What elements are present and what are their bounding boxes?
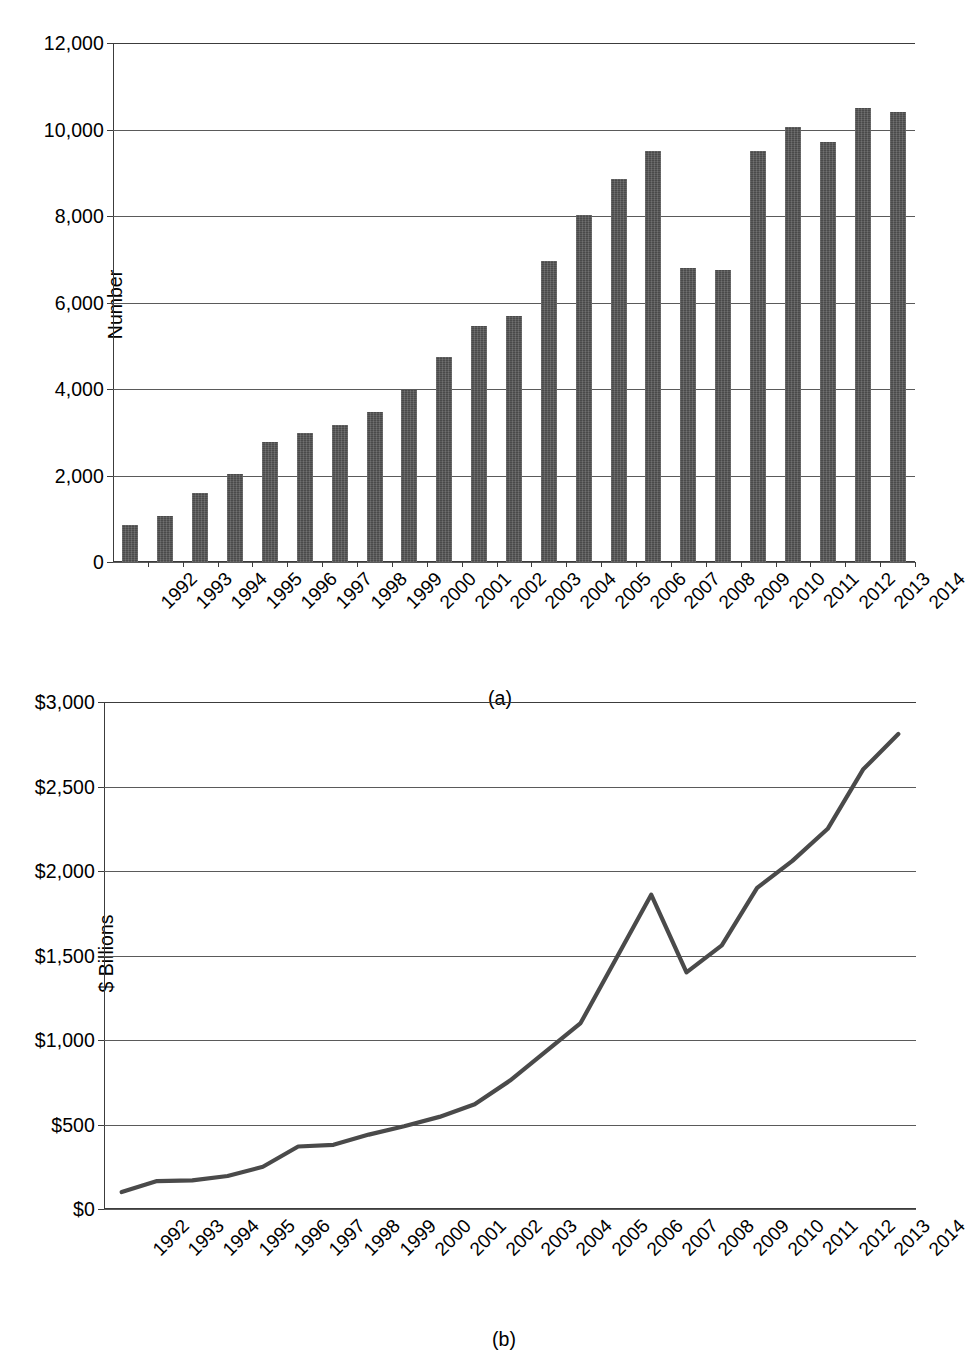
bar-2001: [436, 357, 452, 562]
panel-b-caption: (b): [98, 1328, 910, 1351]
x-axis-label-2010: 2010: [784, 1215, 829, 1260]
bar-2000: [401, 390, 417, 562]
line-series-path: [104, 702, 916, 1209]
y-axis-tick-label: $0: [73, 1198, 95, 1221]
bar-2004: [541, 261, 557, 562]
bar-2012: [820, 142, 836, 562]
x-axis-label-2005: 2005: [610, 568, 655, 613]
bar-chart-plot-area: Number 02,0004,0006,0008,00010,00012,000…: [113, 43, 915, 562]
x-axis-label-1996: 1996: [289, 1215, 334, 1260]
x-axis-label-1992: 1992: [148, 1215, 193, 1260]
x-axis-label-2004: 2004: [572, 1215, 617, 1260]
x-axis-label-2003: 2003: [540, 568, 585, 613]
gridline: [113, 43, 915, 44]
x-axis-label-1995: 1995: [254, 1215, 299, 1260]
y-axis-tick-label: $1,000: [35, 1029, 95, 1052]
bar-2013: [855, 108, 871, 562]
y-axis-tick-label: 10,000: [44, 118, 104, 141]
bar-2006: [611, 179, 627, 562]
bar-2005: [576, 215, 592, 562]
bar-1999: [367, 412, 383, 563]
x-axis-labels-b: 1992199319941995199619971998199920002001…: [104, 1209, 916, 1299]
y-axis-tick-label: $1,500: [35, 944, 95, 967]
y-axis-tick: [107, 216, 113, 217]
y-axis-tick: [107, 476, 113, 477]
x-axis-label-1994: 1994: [227, 568, 272, 613]
bar-2014: [890, 112, 906, 562]
bar-2003: [506, 316, 522, 562]
x-axis-label-2009: 2009: [750, 568, 795, 613]
x-axis-label-1999: 1999: [401, 568, 446, 613]
y-axis-tick: [107, 130, 113, 131]
x-axis-label-2007: 2007: [680, 568, 725, 613]
y-axis-tick-label: 6,000: [55, 291, 104, 314]
x-axis-label-1992: 1992: [157, 568, 202, 613]
bar-2010: [750, 151, 766, 562]
y-axis-tick-label: 0: [93, 551, 104, 574]
x-axis-label-2000: 2000: [430, 1215, 475, 1260]
x-axis-label-2002: 2002: [506, 568, 551, 613]
x-axis-label-1999: 1999: [395, 1215, 440, 1260]
line-chart-plot-area: $ Billions $0$500$1,000$1,500$2,000$2,50…: [104, 702, 916, 1209]
x-axis-tick: [915, 562, 916, 567]
x-axis-label-2004: 2004: [575, 568, 620, 613]
x-axis-label-1996: 1996: [296, 568, 341, 613]
y-axis-tick: [107, 43, 113, 44]
y-axis-tick-label: 2,000: [55, 464, 104, 487]
bar-1997: [297, 433, 313, 562]
x-axis-label-2012: 2012: [854, 568, 899, 613]
x-axis-label-2008: 2008: [713, 1215, 758, 1260]
y-axis-tick-label: $3,000: [35, 691, 95, 714]
y-axis-tick-label: $500: [51, 1113, 95, 1136]
x-axis-label-2008: 2008: [715, 568, 760, 613]
bar-1994: [192, 493, 208, 562]
bar-2011: [785, 127, 801, 562]
y-axis-tick-label: 4,000: [55, 378, 104, 401]
x-axis-label-2012: 2012: [854, 1215, 899, 1260]
x-axis-label-2011: 2011: [819, 568, 863, 612]
x-axis-label-2013: 2013: [889, 1215, 934, 1260]
x-axis-label-2009: 2009: [748, 1215, 793, 1260]
x-axis-label-2006: 2006: [642, 1215, 687, 1260]
x-axis-labels-a: 1992199319941995199619971998199920002001…: [113, 562, 915, 652]
y-axis-tick-label: $2,500: [35, 775, 95, 798]
x-axis-label-1994: 1994: [219, 1215, 264, 1260]
x-axis-label-2006: 2006: [645, 568, 690, 613]
bar-1996: [262, 442, 278, 562]
y-axis-tick-label: 8,000: [55, 205, 104, 228]
x-axis-label-2011: 2011: [818, 1215, 862, 1259]
figure-panel-b: $ Billions $0$500$1,000$1,500$2,000$2,50…: [0, 672, 932, 1332]
x-axis-label-2013: 2013: [889, 568, 934, 613]
y-axis-tick-label: 12,000: [44, 32, 104, 55]
x-axis-label-1993: 1993: [192, 568, 237, 613]
bar-2009: [715, 270, 731, 562]
x-axis-label-2002: 2002: [501, 1215, 546, 1260]
x-axis-label-2007: 2007: [678, 1215, 723, 1260]
bar-2002: [471, 326, 487, 562]
bar-1993: [157, 516, 173, 562]
figure-panel-a: Number 02,0004,0006,0008,00010,00012,000…: [0, 0, 932, 672]
bar-2007: [645, 151, 661, 562]
line-chart-canvas: $0$500$1,000$1,500$2,000$2,500$3,000: [104, 702, 916, 1209]
bar-1998: [332, 425, 348, 562]
y-axis-tick: [107, 389, 113, 390]
x-axis-label-2003: 2003: [536, 1215, 581, 1260]
bar-1992: [122, 525, 138, 562]
x-axis-label-2001: 2001: [466, 1215, 511, 1260]
x-axis-label-1998: 1998: [360, 1215, 405, 1260]
bar-2008: [680, 268, 696, 562]
x-axis-label-2010: 2010: [784, 568, 829, 613]
x-axis-label-1997: 1997: [325, 1215, 370, 1260]
x-axis-label-1997: 1997: [331, 568, 376, 613]
x-axis-label-2014: 2014: [924, 568, 969, 613]
bar-1995: [227, 474, 243, 562]
x-axis-label-1993: 1993: [183, 1215, 228, 1260]
bar-chart-canvas: 02,0004,0006,0008,00010,00012,000: [113, 43, 915, 562]
x-axis-label-1998: 1998: [366, 568, 411, 613]
x-axis-label-2000: 2000: [436, 568, 481, 613]
y-axis-tick-label: $2,000: [35, 860, 95, 883]
x-axis-label-1995: 1995: [261, 568, 306, 613]
x-axis-label-2001: 2001: [471, 568, 516, 613]
x-axis-label-2014: 2014: [925, 1215, 969, 1260]
x-axis-label-2005: 2005: [607, 1215, 652, 1260]
